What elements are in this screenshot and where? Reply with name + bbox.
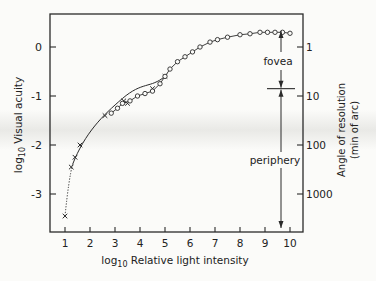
y-tick-label: -2	[31, 139, 42, 152]
x-tick-label: 3	[112, 237, 119, 249]
data-points	[63, 30, 292, 218]
x-tick-label: 7	[212, 237, 219, 249]
circle-marker	[208, 40, 212, 44]
y2-tick-label: 1	[306, 41, 313, 53]
circle-marker	[115, 106, 119, 110]
circle-marker	[190, 50, 194, 54]
circle-marker	[150, 89, 154, 93]
circle-marker	[225, 35, 229, 39]
y-tick-label: -1	[31, 90, 42, 103]
x-tick-label: 4	[137, 237, 144, 249]
x-tick-label: 1	[62, 237, 69, 249]
circle-marker	[175, 60, 179, 64]
cross-marker	[63, 214, 68, 219]
arrowhead-icon	[279, 221, 284, 228]
circle-marker	[288, 31, 292, 35]
x-axis-label: log10 Relative light intensity	[101, 254, 248, 269]
fovea-label: fovea	[263, 55, 292, 67]
arrowhead-icon	[279, 90, 284, 97]
x-tick-label: 9	[262, 237, 269, 249]
circle-marker	[120, 101, 124, 105]
acuity-chart: 12345678910 0-1-2-3 1101001000 log10 Rel…	[0, 0, 376, 281]
x-axis: 12345678910	[62, 227, 297, 249]
y2-tick-label: 100	[306, 139, 326, 151]
periphery-label: periphery	[250, 154, 301, 166]
x-tick-label: 10	[283, 237, 296, 249]
y2-axis-label: Angle of resolution	[336, 83, 347, 177]
circle-marker	[163, 74, 167, 78]
periphery-extrapolation	[65, 165, 73, 216]
circle-marker	[215, 37, 219, 41]
circle-marker	[238, 33, 242, 37]
circle-marker	[135, 94, 139, 98]
circle-marker	[168, 67, 172, 71]
circle-marker	[258, 30, 262, 34]
y-axis-label: log10 Visual acuity	[12, 77, 27, 173]
circle-marker	[265, 30, 269, 34]
circle-marker	[143, 91, 147, 95]
circle-marker	[248, 32, 252, 36]
y-tick-label: -3	[31, 188, 42, 201]
y-axis: 0-1-2-3	[31, 41, 56, 201]
circle-marker	[273, 30, 277, 34]
arrowhead-icon	[279, 81, 284, 88]
x-tick-label: 6	[187, 237, 194, 249]
y2-tick-label: 1000	[306, 188, 333, 200]
circle-marker	[183, 55, 187, 59]
circle-marker	[158, 82, 162, 86]
x-tick-label: 5	[162, 237, 169, 249]
circle-marker	[128, 99, 132, 103]
circle-marker	[198, 45, 202, 49]
y-tick-label: 0	[35, 41, 42, 54]
x-tick-label: 2	[87, 237, 94, 249]
y2-tick-label: 10	[306, 90, 319, 102]
cross-marker	[69, 165, 74, 170]
plot-frame	[50, 14, 303, 232]
x-tick-label: 8	[237, 237, 244, 249]
y2-axis-label-units: (min of arc)	[349, 101, 360, 159]
plot-border	[50, 14, 303, 232]
circle-marker	[109, 111, 113, 115]
